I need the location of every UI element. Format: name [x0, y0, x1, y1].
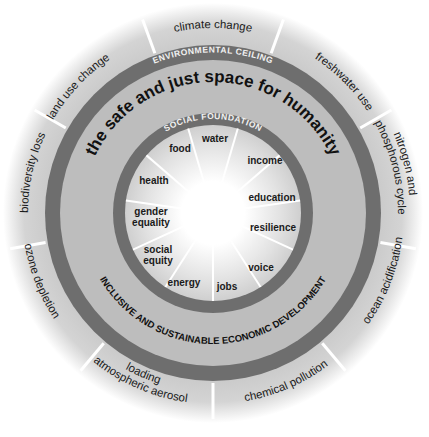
doughnut-diagram: ENVIRONMENTAL CEILING the safe and just … [0, 0, 429, 437]
gender-equality-2: equality [132, 217, 170, 228]
social-water: water [201, 133, 228, 144]
social-energy: energy [168, 277, 201, 288]
social-education: education [248, 192, 295, 203]
social-equity-1: social [144, 244, 173, 255]
social-jobs: jobs [216, 281, 238, 292]
social-income: income [247, 155, 282, 166]
social-voice: voice [248, 262, 274, 273]
social-health: health [139, 175, 168, 186]
social-resilience: resilience [250, 222, 297, 233]
social-equity-2: equity [143, 255, 173, 266]
gender-equality-1: gender [134, 206, 167, 217]
social-food: food [169, 143, 191, 154]
